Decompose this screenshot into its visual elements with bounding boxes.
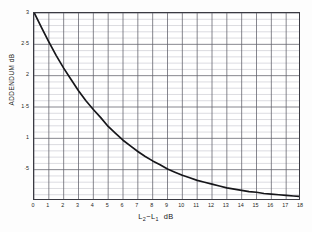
x-tick-label: 10 [174, 202, 188, 208]
data-curve [34, 13, 299, 197]
x-tick-label: 14 [234, 202, 248, 208]
x-tick-label: 0 [26, 202, 40, 208]
x-tick-label: 4 [85, 202, 99, 208]
y-tick-label: 3 [13, 9, 29, 15]
y-tick-label: 2 [13, 71, 29, 77]
x-tick-label: 13 [219, 202, 233, 208]
x-tick-label: 6 [115, 202, 129, 208]
x-tick-label: 3 [71, 202, 85, 208]
x-tick-label: 1 [41, 202, 55, 208]
y-tick-label: 2·5 [13, 40, 29, 46]
x-tick-label: 17 [278, 202, 292, 208]
y-tick-label: ·5 [13, 165, 29, 171]
x-tick-label: 15 [249, 202, 263, 208]
y-tick-label: 1 [13, 134, 29, 140]
x-tick-label: 9 [160, 202, 174, 208]
grid-layer [34, 13, 299, 199]
grid-and-curve-svg [34, 13, 299, 199]
x-tick-label: 8 [145, 202, 159, 208]
x-axis-title-unit: dB [164, 212, 174, 221]
x-tick-label: 16 [263, 202, 277, 208]
plot-area [33, 12, 300, 200]
x-tick-label: 12 [204, 202, 218, 208]
x-tick-label: 5 [100, 202, 114, 208]
x-axis-title: L2−L1dB [0, 212, 312, 222]
x-tick-label: 11 [189, 202, 203, 208]
y-tick-label: 1·5 [13, 103, 29, 109]
x-tick-label: 18 [293, 202, 307, 208]
x-axis-title-l1-sub: 1 [155, 216, 158, 222]
chart-figure: ADDENDUM dB L2−L1dB 01234567891011121314… [0, 0, 312, 232]
x-tick-label: 2 [56, 202, 70, 208]
x-tick-label: 7 [130, 202, 144, 208]
